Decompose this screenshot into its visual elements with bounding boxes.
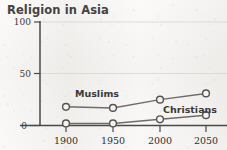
chart-figure: Religion in Asia 100 50 0 1900 1950 2000…: [0, 0, 227, 150]
plot-area: 100 50 0 1900 1950 2000 2050 Muslims Chr…: [0, 0, 227, 150]
data-point-marker: [203, 90, 210, 97]
y-tick-label-100: 100: [14, 17, 31, 27]
data-point-marker: [110, 105, 117, 112]
x-tick-label-1950: 1950: [101, 135, 125, 146]
data-point-marker: [157, 116, 164, 123]
data-point-marker: [157, 96, 164, 103]
series-line-christians: [66, 115, 206, 123]
data-point-marker: [63, 103, 70, 110]
x-tick-label-2000: 2000: [148, 135, 172, 146]
data-point-marker: [110, 120, 117, 127]
series-label-muslims: Muslims: [75, 88, 119, 99]
y-tick-label-50: 50: [20, 69, 32, 79]
x-tick-label-2050: 2050: [194, 135, 218, 146]
data-point-marker: [63, 120, 70, 127]
x-tick-label-1900: 1900: [54, 135, 78, 146]
y-tick-label-0: 0: [21, 121, 27, 131]
series-label-christians: Christians: [163, 104, 217, 115]
